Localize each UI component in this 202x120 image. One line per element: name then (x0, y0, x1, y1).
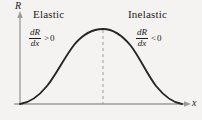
region-label-elastic: Elastic (33, 8, 64, 20)
fraction-numerator: dR (29, 28, 41, 37)
fraction-numerator: dR (136, 28, 148, 37)
derivative-annotation-inelastic: dR dx < 0 (136, 28, 162, 49)
y-axis-arrowhead (17, 11, 22, 18)
revenue-elasticity-figure: R x Elastic Inelastic dR dx > 0 dR dx < … (0, 0, 202, 120)
fraction-denominator: dx (137, 39, 148, 48)
fraction-dr-dx-left: dR dx (29, 28, 41, 49)
relation-operator: < (151, 33, 156, 43)
plot-canvas (0, 0, 202, 120)
relation-operator: > (44, 33, 49, 43)
derivative-annotation-elastic: dR dx > 0 (29, 28, 55, 49)
fraction-denominator: dx (30, 39, 41, 48)
relation-value: 0 (157, 33, 162, 43)
x-axis-arrowhead (184, 101, 191, 106)
fraction-dr-dx-right: dR dx (136, 28, 148, 49)
region-label-inelastic: Inelastic (128, 8, 167, 20)
x-axis-label: x (192, 97, 196, 108)
y-axis-label: R (15, 0, 21, 11)
relation-value: 0 (50, 33, 55, 43)
